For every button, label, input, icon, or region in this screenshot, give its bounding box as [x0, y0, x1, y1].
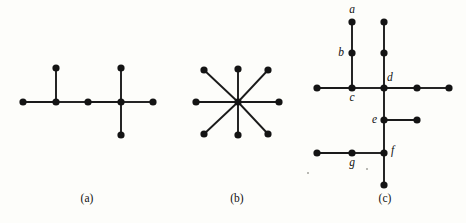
edge-group-c	[317, 22, 449, 185]
graph-node-b-b4	[264, 130, 271, 137]
graph-panel-b: (b)	[192, 65, 282, 205]
graph-node-c-h	[380, 18, 387, 25]
panel-caption-c: (c)	[379, 192, 392, 205]
graph-node-c-b	[348, 49, 355, 56]
graph-node-b-b6	[200, 130, 207, 137]
graph-node-c-o	[380, 181, 387, 188]
graph-edge-b0-b6	[204, 102, 238, 134]
graph-node-a-a1	[19, 98, 26, 105]
graph-figure-canvas: (a)(b)abcdefg(c)	[0, 0, 466, 223]
vertex-label-a: a	[349, 3, 355, 15]
graph-node-a-a5	[117, 98, 124, 105]
vertex-label-e: e	[372, 113, 377, 125]
graph-node-b-b2	[264, 66, 271, 73]
graph-node-a-a2	[52, 98, 59, 105]
graph-panel-c: abcdefg(c)	[313, 3, 452, 205]
graph-node-c-n	[313, 149, 320, 156]
graph-node-c-f	[380, 149, 387, 156]
panel-caption-b: (b)	[230, 192, 244, 205]
graph-node-c-a	[348, 18, 355, 25]
graph-node-b-b0	[234, 98, 241, 105]
graph-node-b-b5	[234, 131, 241, 138]
graph-node-c-k	[413, 84, 420, 91]
graph-node-c-d	[380, 84, 387, 91]
graph-node-a-a8	[149, 98, 156, 105]
graph-node-a-a6	[117, 64, 124, 71]
vertex-label-f: f	[391, 144, 396, 157]
panel-caption-a: (a)	[81, 192, 94, 205]
vertex-label-b: b	[338, 46, 344, 58]
graph-node-a-a4	[84, 98, 91, 105]
node-group-c	[313, 18, 452, 188]
graph-node-c-e	[380, 116, 387, 123]
graph-node-b-b8	[200, 66, 207, 73]
graph-node-c-l	[445, 84, 452, 91]
paper-speck-0	[307, 172, 309, 174]
graph-node-a-a3	[52, 64, 59, 71]
graph-node-b-b3	[275, 98, 282, 105]
graph-edge-b0-b4	[238, 102, 268, 134]
graph-edge-b0-b2	[238, 70, 268, 102]
vertex-label-g: g	[349, 156, 355, 169]
graph-node-b-b1	[234, 65, 241, 72]
graph-edge-b0-b8	[204, 70, 238, 102]
graph-figure: (a)(b)abcdefg(c)	[0, 0, 466, 223]
vertex-label-c: c	[349, 91, 354, 103]
vertex-label-d: d	[387, 71, 393, 83]
graph-node-b-b7	[192, 98, 199, 105]
paper-speck-1	[366, 168, 368, 170]
graph-node-c-i	[380, 49, 387, 56]
graph-panel-a: (a)	[19, 64, 156, 205]
graph-node-c-j	[313, 84, 320, 91]
graph-node-a-a7	[117, 131, 124, 138]
graph-node-c-m	[413, 116, 420, 123]
label-group-c: abcdefg	[338, 3, 396, 169]
